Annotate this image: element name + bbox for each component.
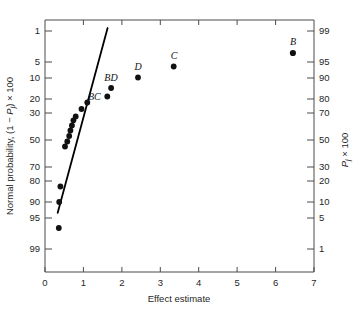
left-tick-label: 10 [29,72,40,83]
top-axis-ticks [83,20,275,25]
right-tick-label: 30 [319,161,330,172]
data-point [56,225,62,231]
left-tick-label: 70 [29,161,40,172]
data-point [79,106,85,112]
left-tick-label: 95 [29,212,40,223]
right-tick-label: 5 [319,212,324,223]
right-tick-label: 90 [319,72,330,83]
left-tick-label: 30 [29,107,40,118]
right-axis-ticks [307,31,314,249]
normal-probability-plot-figure: 0 1 2 3 4 5 6 7 [0,0,356,310]
data-point [68,128,74,134]
left-tick-label: 5 [35,56,40,67]
data-point [64,139,70,145]
x-tick-label: 4 [196,277,201,288]
data-point [69,123,75,129]
x-axis-ticks [45,267,314,272]
left-axis-tick-labels: 1 5 10 20 30 50 70 80 90 95 99 [29,25,40,254]
svg-text:Normal probability, (1 − Pj) ×: Normal probability, (1 − Pj) × 100 [4,77,17,215]
left-tick-label: 1 [35,25,40,36]
point-label-d: D [133,61,142,72]
point-label-bc: BC [88,91,101,102]
left-tick-label: 50 [29,134,40,145]
data-point-b [290,50,296,56]
right-tick-label: 70 [319,107,330,118]
x-tick-label: 6 [273,277,278,288]
x-axis-title: Effect estimate [148,293,211,304]
x-tick-label: 2 [119,277,124,288]
right-tick-label: 99 [319,25,330,36]
x-axis-tick-labels: 0 1 2 3 4 5 6 7 [42,277,316,288]
x-tick-label: 0 [42,277,47,288]
left-tick-label: 20 [29,93,40,104]
chart-canvas: 0 1 2 3 4 5 6 7 [0,0,356,310]
data-point-d [135,75,141,81]
left-axis-title: Normal probability, (1 − Pj) × 100 [4,77,17,215]
point-annotations: BC BD D C B [88,36,296,102]
x-tick-label: 7 [311,277,316,288]
data-point [56,199,62,205]
data-point-series [56,50,296,231]
data-point-c [171,64,177,70]
point-label-c: C [171,50,178,61]
left-axis-ticks [45,31,52,249]
data-point [62,144,68,150]
right-axis-tick-labels: 99 95 90 80 70 50 30 20 10 5 1 [319,25,330,254]
data-point-bd [108,85,114,91]
data-point [66,133,72,139]
data-point [58,184,64,190]
left-tick-label: 80 [29,175,40,186]
reference-fit-line [58,28,108,213]
right-tick-label: 50 [319,134,330,145]
right-tick-label: 95 [319,56,330,67]
left-tick-label: 90 [29,196,40,207]
x-tick-label: 3 [158,277,163,288]
right-axis-title: Pj × 100 [339,133,352,168]
svg-text:Pj × 100: Pj × 100 [339,133,352,168]
right-tick-label: 1 [319,243,324,254]
x-tick-label: 1 [81,277,86,288]
data-point-bc [104,94,110,100]
point-label-b: B [290,36,296,47]
right-tick-label: 20 [319,175,330,186]
data-point [73,114,79,120]
point-label-bd: BD [104,72,118,83]
right-tick-label: 80 [319,93,330,104]
right-tick-label: 10 [319,196,330,207]
x-tick-label: 5 [234,277,239,288]
left-tick-label: 99 [29,243,40,254]
